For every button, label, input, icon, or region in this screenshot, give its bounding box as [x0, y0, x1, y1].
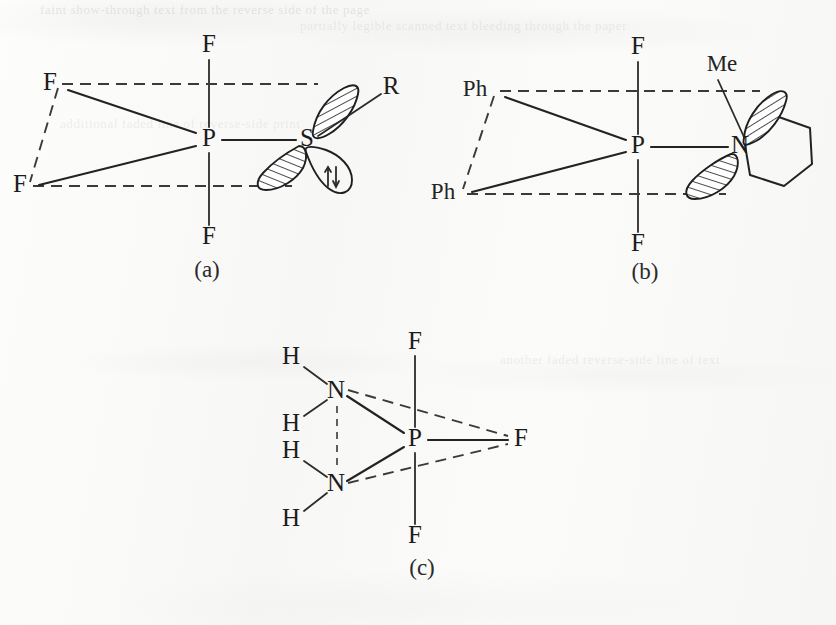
structure-c: F F P F N N H H H H (c): [282, 327, 528, 581]
plane-dash-lower-c: [348, 444, 508, 483]
plane-dash-left-a: [30, 88, 58, 182]
figure-page: faint show-through text from the reverse…: [0, 0, 836, 625]
s-upper-lobe-a: [313, 85, 359, 138]
caption-structure-a: (a): [194, 257, 220, 282]
atom-label-f-axial-bottom-a: F: [202, 222, 216, 249]
s-lower-lobe-a: [258, 146, 306, 190]
atom-label-n-lower-c: N: [327, 469, 345, 496]
bond-p-eq-f-lower-a: [39, 146, 196, 185]
bond-p-n-upper-c: [347, 396, 404, 433]
structure-a: F F F F P S R (a): [13, 30, 400, 283]
atom-label-n-upper-c: N: [327, 376, 345, 403]
atom-label-p-center-a: P: [202, 124, 216, 151]
plane-dash-left-b: [463, 96, 494, 189]
bond-n-h-bottom-outer-c: [304, 493, 327, 511]
atom-label-h-top-inner-c: H: [282, 409, 300, 436]
atom-label-ph-equatorial-lower-b: Ph: [431, 179, 456, 204]
atom-label-r-substituent-a: R: [383, 72, 400, 99]
atom-label-f-axial-top-b: F: [631, 32, 645, 59]
caption-structure-b: (b): [632, 259, 659, 284]
atom-label-f-axial-top-c: F: [408, 327, 422, 354]
atom-label-h-bottom-inner-c: H: [282, 436, 300, 463]
structure-b: F F Ph Ph P N Me (b): [431, 32, 812, 285]
bond-n-h-bottom-inner-c: [304, 461, 327, 477]
bond-p-eq-ph-upper-b: [505, 97, 626, 140]
atom-label-n-b: N: [731, 131, 749, 158]
atom-label-f-equatorial-right-c: F: [514, 424, 528, 451]
atom-label-f-axial-top-a: F: [202, 30, 216, 57]
showthrough-line-4: another faded reverse-side line of text: [500, 352, 720, 367]
bond-n-h-top-inner-c: [304, 400, 327, 416]
atom-label-f-equatorial-lower-a: F: [13, 170, 27, 197]
atom-label-h-top-outer-c: H: [282, 342, 300, 369]
atom-label-f-equatorial-upper-a: F: [43, 68, 57, 95]
showthrough-text-group: faint show-through text from the reverse…: [40, 2, 720, 367]
atom-label-f-axial-bottom-c: F: [408, 521, 422, 548]
atom-label-f-axial-bottom-b: F: [631, 229, 645, 256]
showthrough-line-1: faint show-through text from the reverse…: [40, 2, 370, 17]
atom-label-ph-equatorial-upper-b: Ph: [463, 76, 488, 101]
n-lower-lobe-b: [686, 154, 738, 199]
lone-pair-arrows-a: [325, 167, 339, 187]
bond-p-eq-ph-lower-b: [472, 152, 626, 192]
chemical-structures-canvas: faint show-through text from the reverse…: [0, 0, 836, 625]
bond-n-h-top-outer-c: [304, 367, 327, 384]
bond-n-me-b: [718, 80, 744, 137]
atom-label-h-bottom-outer-c: H: [282, 504, 300, 531]
atom-label-me-substituent-b: Me: [707, 51, 738, 76]
atom-label-p-center-c: P: [408, 424, 422, 451]
atom-label-s-a: S: [300, 124, 314, 151]
showthrough-line-2: partially legible scanned text bleeding …: [300, 18, 627, 33]
atom-label-p-center-b: P: [631, 131, 645, 158]
caption-structure-c: (c): [409, 555, 435, 580]
